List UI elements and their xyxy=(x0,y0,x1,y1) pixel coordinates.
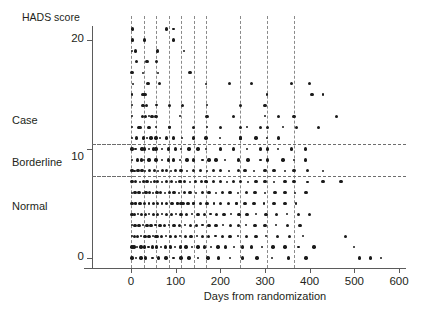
data-point xyxy=(246,126,248,128)
data-point xyxy=(192,158,195,161)
x-tick-mark-300 xyxy=(265,268,266,273)
data-point xyxy=(134,180,137,183)
data-point xyxy=(253,170,255,172)
data-point xyxy=(157,256,160,259)
data-point xyxy=(308,213,311,216)
data-point xyxy=(142,72,144,74)
data-point xyxy=(152,202,155,205)
data-point xyxy=(277,148,279,150)
data-point xyxy=(187,147,190,150)
data-point xyxy=(292,169,295,172)
data-point xyxy=(219,202,222,205)
data-point xyxy=(312,245,315,248)
data-point xyxy=(172,158,175,161)
data-point xyxy=(151,245,154,248)
x-tick-label-0: 0 xyxy=(106,275,156,287)
data-point xyxy=(131,27,134,30)
data-point xyxy=(237,169,240,172)
data-point xyxy=(147,246,149,248)
data-point xyxy=(145,60,148,63)
data-point xyxy=(172,224,175,227)
data-point xyxy=(175,181,177,183)
data-point xyxy=(152,192,154,194)
threshold-line-0 xyxy=(93,144,406,145)
data-point xyxy=(239,104,242,107)
vertical-reference-line-6 xyxy=(206,16,207,268)
data-point xyxy=(131,38,134,41)
data-point xyxy=(304,147,307,150)
data-point xyxy=(151,257,153,259)
data-point xyxy=(219,169,222,172)
data-point xyxy=(130,256,133,259)
data-point xyxy=(304,256,307,259)
data-point xyxy=(230,213,232,215)
data-point xyxy=(264,192,266,194)
data-point xyxy=(179,256,182,259)
data-point xyxy=(194,180,197,183)
data-point xyxy=(212,180,215,183)
data-point xyxy=(263,202,265,204)
data-point xyxy=(137,224,140,227)
data-point xyxy=(132,83,134,85)
data-point xyxy=(137,213,139,215)
data-point xyxy=(290,82,293,85)
data-point xyxy=(266,147,269,150)
data-point xyxy=(187,256,190,259)
data-point xyxy=(215,192,217,194)
data-point xyxy=(250,245,253,248)
data-point xyxy=(207,158,210,161)
data-point xyxy=(183,50,185,52)
data-point xyxy=(286,224,289,227)
data-point xyxy=(213,202,215,204)
data-point xyxy=(164,192,166,194)
data-point xyxy=(266,126,269,129)
plot-area xyxy=(93,16,406,268)
data-point xyxy=(277,115,280,118)
data-point xyxy=(172,28,174,30)
data-point xyxy=(161,169,164,172)
data-point xyxy=(191,246,193,248)
data-point xyxy=(214,224,217,227)
data-point xyxy=(157,72,159,74)
data-point xyxy=(237,224,240,227)
data-point xyxy=(205,83,207,85)
data-point xyxy=(237,213,240,216)
data-point xyxy=(254,235,257,238)
data-point xyxy=(304,158,307,161)
data-point xyxy=(161,148,163,150)
data-point xyxy=(201,224,203,226)
data-point xyxy=(154,158,157,161)
data-point xyxy=(152,213,155,216)
data-point xyxy=(146,137,148,139)
data-point xyxy=(169,245,172,248)
data-point xyxy=(188,71,191,74)
data-point xyxy=(288,235,291,238)
data-point xyxy=(246,148,248,150)
data-point xyxy=(196,245,199,248)
data-point xyxy=(131,159,133,161)
data-point xyxy=(369,256,372,259)
data-point xyxy=(210,246,212,248)
data-point xyxy=(207,235,210,238)
data-point xyxy=(144,256,147,259)
data-point xyxy=(174,246,176,248)
data-point xyxy=(232,147,235,150)
data-point xyxy=(259,126,262,129)
data-point xyxy=(181,137,183,139)
data-point xyxy=(195,192,197,194)
x-tick-mark-100 xyxy=(176,268,177,273)
data-point xyxy=(155,245,158,248)
data-point xyxy=(283,180,286,183)
x-tick-label-300: 300 xyxy=(240,275,290,287)
data-point xyxy=(159,191,162,194)
data-point xyxy=(237,158,240,161)
data-point xyxy=(178,192,180,194)
data-point xyxy=(216,245,219,248)
vertical-reference-line-5 xyxy=(194,16,195,268)
data-point xyxy=(306,169,309,172)
data-point xyxy=(310,93,313,96)
x-tick-label-600: 600 xyxy=(374,275,424,287)
y-axis-title: HADS score xyxy=(22,11,80,23)
data-point xyxy=(272,169,275,172)
data-point xyxy=(203,213,206,216)
